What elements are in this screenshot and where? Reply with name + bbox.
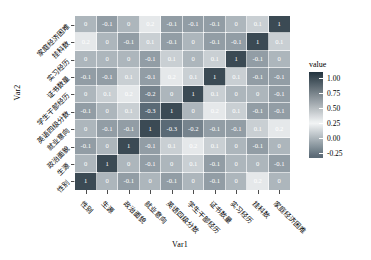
heatmap-cell: -0.1 — [140, 138, 162, 155]
heatmap-cell: -0.1 — [247, 51, 269, 68]
heatmap-cell: 0.2 — [204, 103, 226, 120]
heatmap-cell: -0.1 — [75, 103, 97, 120]
legend-tick — [319, 108, 323, 109]
legend-tick — [319, 153, 323, 154]
heatmap-cell: -0.1 — [269, 68, 291, 85]
heatmap-cell: 0 — [118, 155, 140, 172]
legend-tick — [319, 123, 323, 124]
heatmap-cell: 0.2 — [75, 33, 97, 50]
heatmap-cell: 0 — [161, 86, 183, 103]
heatmap-cell: 0.1 — [269, 33, 291, 50]
heatmap-cell: 0.2 — [118, 86, 140, 103]
heatmap-cell: -0.1 — [75, 138, 97, 155]
heatmap-cell: 0.2 — [183, 138, 205, 155]
heatmap-cell: 0 — [247, 86, 269, 103]
heatmap-cell: 0 — [97, 33, 119, 50]
heatmap-cell: -0.1 — [118, 120, 140, 137]
heatmap-cell: 0 — [226, 16, 248, 33]
heatmap-cell: 0 — [183, 51, 205, 68]
heatmap-cell: 0.1 — [97, 86, 119, 103]
x-axis-tick — [150, 190, 151, 194]
heatmap-cell: -0.1 — [247, 103, 269, 120]
x-axis-tick-label: 生源 — [100, 198, 117, 215]
x-axis-tick — [86, 190, 87, 194]
heatmap-cell: 1 — [75, 173, 97, 190]
heatmap-cell: 0 — [118, 51, 140, 68]
heatmap-cell: 1 — [183, 86, 205, 103]
heatmap-cell: 0.1 — [226, 103, 248, 120]
heatmap-cell: -0.1 — [140, 51, 162, 68]
heatmap-cell: 1 — [161, 103, 183, 120]
legend-tick-label: 0.50 — [327, 104, 340, 113]
heatmap-cell: 0.1 — [118, 103, 140, 120]
heatmap-cell: -0.1 — [183, 16, 205, 33]
heatmap-cell: 0 — [269, 138, 291, 155]
x-axis-tick — [279, 190, 280, 194]
heatmap-cell: 0.2 — [161, 68, 183, 85]
heatmap-cell: -0.1 — [247, 138, 269, 155]
heatmap-cell: -0.1 — [118, 173, 140, 190]
heatmap-cell: 0 — [161, 155, 183, 172]
heatmap-cell: -0.1 — [247, 68, 269, 85]
heatmap-cell: 0 — [247, 155, 269, 172]
legend-tick-label: 0.00 — [327, 134, 340, 143]
heatmap-cell: 0 — [75, 155, 97, 172]
heatmap-cell: 1 — [118, 138, 140, 155]
heatmap-cell: 0 — [97, 103, 119, 120]
heatmap-cell: 0.1 — [161, 138, 183, 155]
heatmap-cell: -0.1 — [226, 33, 248, 50]
heatmap-cell: 0.1 — [118, 68, 140, 85]
legend-colorbar — [309, 72, 323, 158]
heatmap-cell: 0 — [183, 173, 205, 190]
heatmap-cell: -0.1 — [97, 120, 119, 137]
legend: value 1.000.750.500.250.00-0.25 — [305, 60, 369, 158]
heatmap-cell: 0 — [183, 33, 205, 50]
heatmap-cell: 1 — [247, 33, 269, 50]
heatmap-cell: 0 — [183, 103, 205, 120]
heatmap-cell: 0 — [226, 86, 248, 103]
correlation-heatmap-figure: Var2 0-0.100.2-0.1-0.1-0.100.110.20-0.10… — [0, 0, 371, 260]
heatmap-cell: -0.1 — [75, 68, 97, 85]
heatmap-cell: 0 — [226, 138, 248, 155]
heatmap-cell: 0.2 — [247, 173, 269, 190]
heatmap-cell: -0.1 — [118, 33, 140, 50]
heatmap-cell: -0.1 — [226, 120, 248, 137]
legend-tick — [319, 138, 323, 139]
x-axis-title: Var1 — [70, 240, 290, 249]
heatmap-cell: 0 — [75, 51, 97, 68]
legend-tick — [319, 78, 323, 79]
legend-tick-label: 0.75 — [327, 89, 340, 98]
heatmap-cell: 1 — [269, 16, 291, 33]
heatmap-cell: 0.2 — [269, 120, 291, 137]
heatmap-cell: -0.1 — [140, 155, 162, 172]
x-axis-ticks — [75, 190, 290, 195]
legend-title: value — [309, 60, 369, 69]
heatmap-cell: 0 — [97, 173, 119, 190]
x-axis-tick — [236, 190, 237, 194]
heatmap-cell: 0 — [75, 16, 97, 33]
x-axis-tick-label: 性别 — [79, 198, 96, 215]
heatmap-cell: 0 — [269, 51, 291, 68]
heatmap-cell: 0 — [97, 51, 119, 68]
heatmap-cell: -0.1 — [161, 16, 183, 33]
heatmap-cell: 0 — [75, 120, 97, 137]
x-axis-tick — [258, 190, 259, 194]
heatmap-cell: 0.1 — [204, 51, 226, 68]
heatmap-cell: 0.1 — [183, 155, 205, 172]
heatmap-cell: -0.1 — [140, 68, 162, 85]
x-axis-tick — [172, 190, 173, 194]
heatmap-cell: 0 — [118, 16, 140, 33]
heatmap-cell: 0 — [140, 173, 162, 190]
heatmap-cell: -0.1 — [204, 155, 226, 172]
heatmap-cell: -0.1 — [269, 86, 291, 103]
heatmap-cell: 1 — [226, 51, 248, 68]
heatmap-cell: -0.1 — [97, 68, 119, 85]
heatmap-cell: 0.2 — [140, 16, 162, 33]
legend-tick-label: 0.25 — [327, 119, 340, 128]
x-axis-tick — [107, 190, 108, 194]
heatmap-cell: 0 — [75, 86, 97, 103]
heatmap-cell: -0.3 — [140, 103, 162, 120]
heatmap-panel: 0-0.100.2-0.1-0.1-0.100.110.20-0.10.1-0.… — [75, 16, 290, 190]
legend-tick-label: 1.00 — [327, 74, 340, 83]
heatmap-cell: -0.1 — [97, 16, 119, 33]
